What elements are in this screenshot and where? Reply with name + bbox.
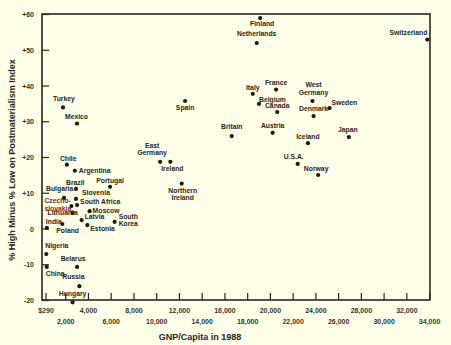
data-point: Denmark <box>299 105 328 118</box>
data-point: Estonia <box>85 223 115 232</box>
point-label: Chile <box>60 155 77 162</box>
point-marker <box>310 99 314 103</box>
x-tick-label: 26,000 <box>328 318 350 326</box>
point-label: Ireland <box>161 165 183 172</box>
point-label: Portugal <box>96 177 124 185</box>
x-tick-label: 22,000 <box>282 318 304 326</box>
point-marker <box>75 265 79 269</box>
x-tick-label: 34,000 <box>419 318 441 326</box>
data-point: Argentina <box>73 167 111 175</box>
y-tick-label: +20 <box>22 154 34 161</box>
point-label: Finland <box>250 20 274 27</box>
point-label: Czecho- <box>44 197 70 204</box>
point-label-line2: Korea <box>119 220 138 227</box>
point-label: Denmark <box>299 105 328 112</box>
data-point: Austria <box>261 122 285 135</box>
data-point: Hungary <box>59 290 87 304</box>
point-label: South Africa <box>80 198 120 205</box>
data-point: Sweden <box>327 99 357 110</box>
point-label: Estonia <box>90 225 115 232</box>
point-label: Northern <box>168 187 197 194</box>
data-point: France <box>265 79 288 92</box>
scatter-chart: % High Minus % Low on Postmaterialism In… <box>0 0 451 345</box>
point-marker <box>75 203 79 207</box>
point-label: Latvia <box>85 213 105 220</box>
data-point: Spain <box>176 99 195 112</box>
point-marker <box>255 41 259 45</box>
y-tick-label: +50 <box>22 47 34 54</box>
point-label: East <box>145 142 160 149</box>
data-point: Netherlands <box>237 30 277 45</box>
x-tick-label: 6,000 <box>102 318 120 326</box>
point-label: Switzerland <box>390 29 428 36</box>
data-point: Portugal <box>96 177 124 189</box>
y-tick-label: 0 <box>30 226 34 233</box>
data-point: Mexico <box>65 113 88 126</box>
point-marker <box>168 160 172 164</box>
point-label: Argentina <box>79 167 111 175</box>
x-tick-label: 18,000 <box>237 318 259 326</box>
point-label: West <box>305 81 322 88</box>
y-tick-label: +10 <box>22 190 34 197</box>
point-marker <box>180 181 184 185</box>
point-marker <box>70 300 74 304</box>
data-point: Latvia <box>80 213 105 222</box>
point-label: Russia <box>62 273 85 280</box>
point-label: Iceland <box>296 133 319 140</box>
y-tick-label: +30 <box>22 118 34 125</box>
point-marker <box>85 223 89 227</box>
point-marker <box>77 284 81 288</box>
point-label: Netherlands <box>237 30 277 37</box>
x-tick-label: 8,000 <box>125 307 143 315</box>
point-label: Belarus <box>61 255 86 262</box>
plot-frame <box>42 14 430 300</box>
x-tick-label: 16,000 <box>214 307 236 315</box>
point-label: Austria <box>261 122 285 129</box>
point-label: Britain <box>221 123 243 130</box>
data-point: Norway <box>304 165 329 177</box>
point-marker <box>44 252 48 256</box>
x-tick-label: 12,000 <box>169 307 191 315</box>
point-marker <box>158 160 162 164</box>
data-point: Switzerland <box>390 29 430 42</box>
y-axis: +60+50+40+30+20+100-10-20 <box>22 11 49 304</box>
x-tick-label: 24,000 <box>305 307 327 315</box>
point-label: Nigeria <box>45 242 68 250</box>
data-point: Britain <box>221 123 243 138</box>
data-point: Chile <box>60 155 77 167</box>
point-label: South <box>119 213 138 220</box>
data-point: Finland <box>250 16 274 27</box>
point-marker <box>113 220 117 224</box>
x-tick-label: $290 <box>38 307 54 315</box>
point-marker <box>45 265 49 269</box>
y-axis-title: % High Minus % Low on Postmaterialism In… <box>7 59 17 261</box>
x-tick-label: 28,000 <box>351 307 373 315</box>
point-label: Hungary <box>59 290 87 298</box>
point-marker <box>75 121 79 125</box>
point-label: Slovenia <box>82 189 110 196</box>
y-tick-label: +40 <box>22 83 34 90</box>
point-marker <box>425 37 429 41</box>
data-point: EastGermany <box>137 142 167 164</box>
y-tick-label: -10 <box>24 261 34 268</box>
data-point: WestGermany <box>299 81 329 103</box>
data-point: Turkey <box>53 95 75 109</box>
data-point: U.S.A. <box>284 153 304 166</box>
point-label: Spain <box>176 104 195 112</box>
point-marker <box>230 134 234 138</box>
point-label: Sweden <box>332 99 358 106</box>
point-label: France <box>265 79 288 86</box>
point-label-line2: Germany <box>299 89 329 97</box>
point-label: Bulgaria <box>46 185 73 193</box>
point-marker <box>183 99 187 103</box>
x-tick-label: 14,000 <box>191 318 213 326</box>
data-point: Ireland <box>161 160 183 172</box>
x-tick-label: 32,000 <box>396 307 418 315</box>
data-point: SouthKorea <box>113 213 139 228</box>
x-axis: $2902,0004,0006,0008,00010,00012,00014,0… <box>38 293 440 326</box>
point-marker <box>316 173 320 177</box>
data-point: Japan <box>338 126 358 139</box>
x-axis-title: GNP/Capita in 1988 <box>159 332 242 342</box>
point-label: India <box>46 218 62 225</box>
point-marker <box>45 226 49 230</box>
